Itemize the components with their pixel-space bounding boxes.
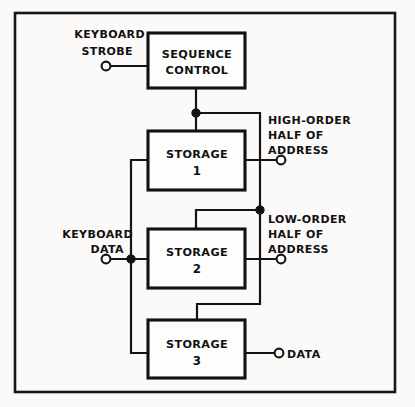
- terminal-data-output[interactable]: [275, 349, 284, 358]
- block-storage-1-number: 1: [193, 164, 202, 178]
- block-storage-2-number: 2: [193, 262, 202, 276]
- label-high-order-address-line3: ADDRESS: [268, 144, 329, 157]
- label-keyboard-data-line2: DATA: [90, 243, 124, 256]
- label-high-order-address-line2: HALF OF: [268, 129, 324, 142]
- diagram-page: SEQUENCE CONTROL STORAGE 1 STORAGE 2 STO…: [0, 0, 415, 407]
- junction-dot-clock-trunk: [192, 109, 200, 117]
- block-storage-3-number: 3: [193, 354, 202, 368]
- junction-dot-keyboard-data-bus: [127, 255, 135, 263]
- label-data-output: DATA: [287, 348, 321, 361]
- block-storage-2-label: STORAGE: [166, 246, 228, 259]
- block-storage-3-label: STORAGE: [166, 338, 228, 351]
- label-keyboard-strobe-line1: KEYBOARD: [74, 28, 145, 41]
- terminal-keyboard-strobe[interactable]: [102, 62, 111, 71]
- label-keyboard-strobe-line2: STROBE: [81, 45, 133, 58]
- block-diagram-canvas: SEQUENCE CONTROL STORAGE 1 STORAGE 2 STO…: [0, 0, 415, 407]
- label-high-order-address-line1: HIGH-ORDER: [268, 114, 351, 127]
- label-low-order-address-line3: ADDRESS: [268, 243, 329, 256]
- junction-dot-low-order-branch: [256, 206, 264, 214]
- label-low-order-address-line2: HALF OF: [268, 228, 324, 241]
- wire-clock-to-storage-2: [196, 210, 260, 229]
- block-storage-1-label: STORAGE: [166, 148, 228, 161]
- label-keyboard-data-line1: KEYBOARD: [62, 228, 133, 241]
- label-low-order-address-line1: LOW-ORDER: [268, 213, 347, 226]
- block-sequence-control-line2: CONTROL: [166, 64, 229, 77]
- block-sequence-control-line1: SEQUENCE: [162, 48, 232, 61]
